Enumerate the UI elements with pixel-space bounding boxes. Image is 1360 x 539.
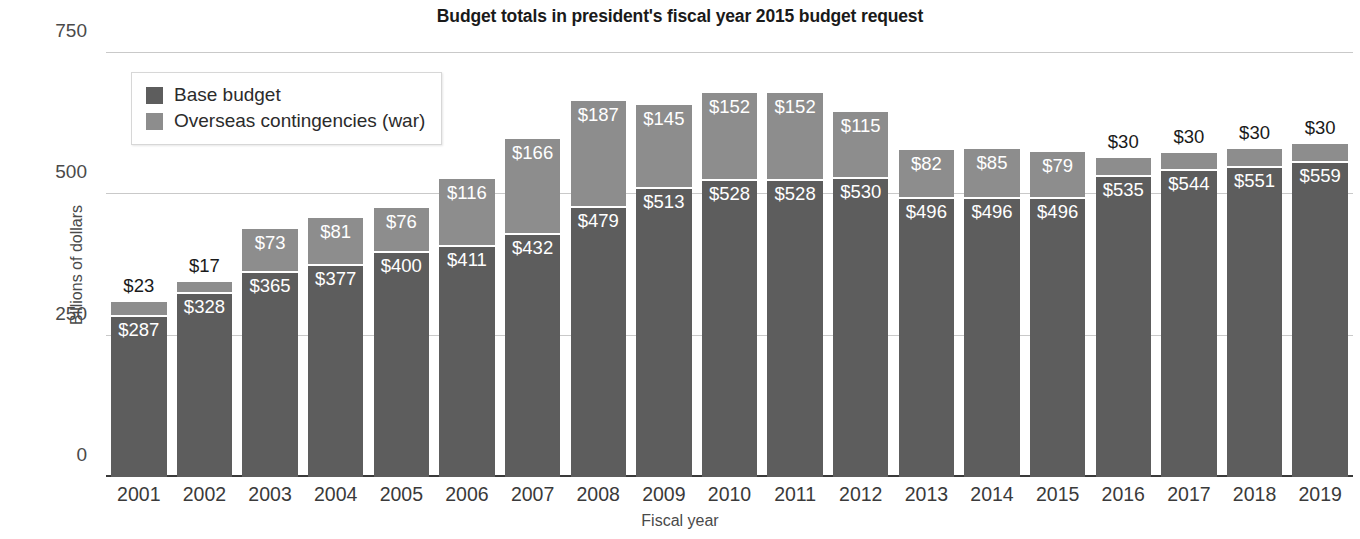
x-tick-label: 2002 xyxy=(172,483,238,506)
legend-swatch-icon xyxy=(146,113,163,130)
bar-value-label-base: $530 xyxy=(833,183,888,202)
bar-segment-war[interactable]: $115 xyxy=(833,110,888,179)
bar-segment-war[interactable]: $85 xyxy=(964,147,1019,199)
bar-segment-war[interactable]: $152 xyxy=(702,91,757,181)
bar-group[interactable]: $411$116 xyxy=(439,179,494,477)
bar-group[interactable]: $528$152 xyxy=(702,93,757,477)
bar-segment-war[interactable]: $30 xyxy=(1292,142,1347,163)
bar-group[interactable]: $432$166 xyxy=(505,139,560,477)
bar-segment-base[interactable]: $496 xyxy=(1030,197,1085,477)
x-tick-label: 2006 xyxy=(434,483,500,506)
x-tick-label: 2017 xyxy=(1156,483,1222,506)
bar-segment-base[interactable]: $479 xyxy=(571,206,626,477)
bar-value-label-base: $528 xyxy=(767,185,822,204)
bar-group[interactable]: $528$152 xyxy=(767,93,822,477)
bar-value-label-war: $152 xyxy=(767,98,822,117)
x-tick-label: 2012 xyxy=(828,483,894,506)
bar-segment-base[interactable]: $328 xyxy=(177,292,232,477)
bar-segment-war[interactable]: $81 xyxy=(308,216,363,266)
bar-segment-base[interactable]: $535 xyxy=(1096,175,1151,477)
bar-value-label-base: $377 xyxy=(308,270,363,289)
bar-group[interactable]: $544$30 xyxy=(1161,153,1216,478)
bar-segment-war[interactable]: $187 xyxy=(571,99,626,209)
bar-group[interactable]: $559$30 xyxy=(1292,144,1347,477)
gridline-750 xyxy=(106,52,1353,53)
bar-segment-base[interactable]: $551 xyxy=(1227,166,1282,477)
bar-value-label-base: $535 xyxy=(1096,181,1151,200)
bar-value-label-base: $287 xyxy=(111,321,166,340)
bar-value-label-base: $479 xyxy=(571,212,626,231)
bar-segment-war[interactable]: $76 xyxy=(374,206,429,253)
bar-group[interactable]: $496$82 xyxy=(899,150,954,477)
bar-value-label-war: $76 xyxy=(374,213,429,232)
bar-value-label-war: $30 xyxy=(1096,133,1151,152)
bar-segment-war[interactable]: $152 xyxy=(767,91,822,181)
bar-group[interactable]: $496$85 xyxy=(964,149,1019,477)
bar-value-label-war: $79 xyxy=(1030,157,1085,176)
legend-item[interactable]: Overseas contingencies (war) xyxy=(146,108,425,134)
x-tick-label: 2018 xyxy=(1222,483,1288,506)
bar-segment-war[interactable]: $73 xyxy=(242,227,297,272)
bar-value-label-base: $496 xyxy=(1030,203,1085,222)
bar-group[interactable]: $377$81 xyxy=(308,218,363,477)
bar-segment-base[interactable]: $559 xyxy=(1292,161,1347,477)
bar-segment-base[interactable]: $513 xyxy=(636,187,691,477)
bar-segment-base[interactable]: $544 xyxy=(1161,169,1216,477)
bar-value-label-war: $187 xyxy=(571,106,626,125)
bar-group[interactable]: $535$30 xyxy=(1096,158,1151,477)
x-tick-label: 2013 xyxy=(894,483,960,506)
x-tick-label: 2004 xyxy=(303,483,369,506)
bar-segment-war[interactable]: $79 xyxy=(1030,150,1085,199)
bar-segment-base[interactable]: $377 xyxy=(308,264,363,477)
bar-segment-base[interactable]: $496 xyxy=(964,197,1019,477)
bar-segment-base[interactable]: $365 xyxy=(242,271,297,477)
bar-segment-base[interactable]: $528 xyxy=(702,179,757,477)
legend-item[interactable]: Base budget xyxy=(146,82,425,108)
x-tick-label: 2019 xyxy=(1287,483,1353,506)
bar-segment-base[interactable]: $400 xyxy=(374,251,429,477)
bar-segment-war[interactable]: $166 xyxy=(505,137,560,235)
bar-group[interactable]: $551$30 xyxy=(1227,149,1282,477)
y-tick-label: 750 xyxy=(27,20,87,42)
bar-group[interactable]: $530$115 xyxy=(833,112,888,477)
x-axis-title: Fiscal year xyxy=(0,512,1360,530)
bar-segment-war[interactable]: $30 xyxy=(1096,156,1151,177)
bar-segment-war[interactable]: $116 xyxy=(439,177,494,247)
x-tick-label: 2011 xyxy=(762,483,828,506)
bar-value-label-war: $73 xyxy=(242,234,297,253)
bar-value-label-base: $328 xyxy=(177,298,232,317)
bar-value-label-war: $23 xyxy=(111,277,166,296)
bar-group[interactable]: $400$76 xyxy=(374,208,429,477)
x-tick-label: 2003 xyxy=(237,483,303,506)
bar-group[interactable]: $513$145 xyxy=(636,105,691,477)
chart-legend: Base budgetOverseas contingencies (war) xyxy=(131,72,442,145)
bar-value-label-war: $30 xyxy=(1227,124,1282,143)
x-tick-label: 2001 xyxy=(106,483,172,506)
bar-segment-war[interactable]: $23 xyxy=(111,300,166,317)
bar-value-label-base: $559 xyxy=(1292,167,1347,186)
bar-segment-war[interactable]: $145 xyxy=(636,103,691,189)
bar-segment-war[interactable]: $30 xyxy=(1227,147,1282,168)
x-tick-label: 2016 xyxy=(1090,483,1156,506)
bar-group[interactable]: $479$187 xyxy=(571,101,626,478)
bar-segment-war[interactable]: $82 xyxy=(899,148,954,198)
bar-value-label-base: $432 xyxy=(505,239,560,258)
bar-group[interactable]: $496$79 xyxy=(1030,152,1085,477)
bar-segment-base[interactable]: $432 xyxy=(505,233,560,477)
bar-group[interactable]: $328$17 xyxy=(177,282,232,477)
bar-segment-base[interactable]: $530 xyxy=(833,177,888,477)
bar-value-label-base: $411 xyxy=(439,251,494,270)
bar-group[interactable]: $287$23 xyxy=(111,302,166,477)
bar-segment-war[interactable]: $17 xyxy=(177,280,232,294)
bar-segment-war[interactable]: $30 xyxy=(1161,151,1216,172)
bar-value-label-war: $115 xyxy=(833,117,888,136)
bar-group[interactable]: $365$73 xyxy=(242,229,297,477)
y-axis-title: Billions of dollars xyxy=(68,53,90,477)
bar-segment-base[interactable]: $287 xyxy=(111,315,166,477)
bar-segment-base[interactable]: $496 xyxy=(899,197,954,477)
bar-value-label-war: $17 xyxy=(177,257,232,276)
bar-value-label-base: $365 xyxy=(242,277,297,296)
bar-segment-base[interactable]: $528 xyxy=(767,179,822,477)
bar-segment-base[interactable]: $411 xyxy=(439,245,494,477)
x-tick-label: 2008 xyxy=(565,483,631,506)
